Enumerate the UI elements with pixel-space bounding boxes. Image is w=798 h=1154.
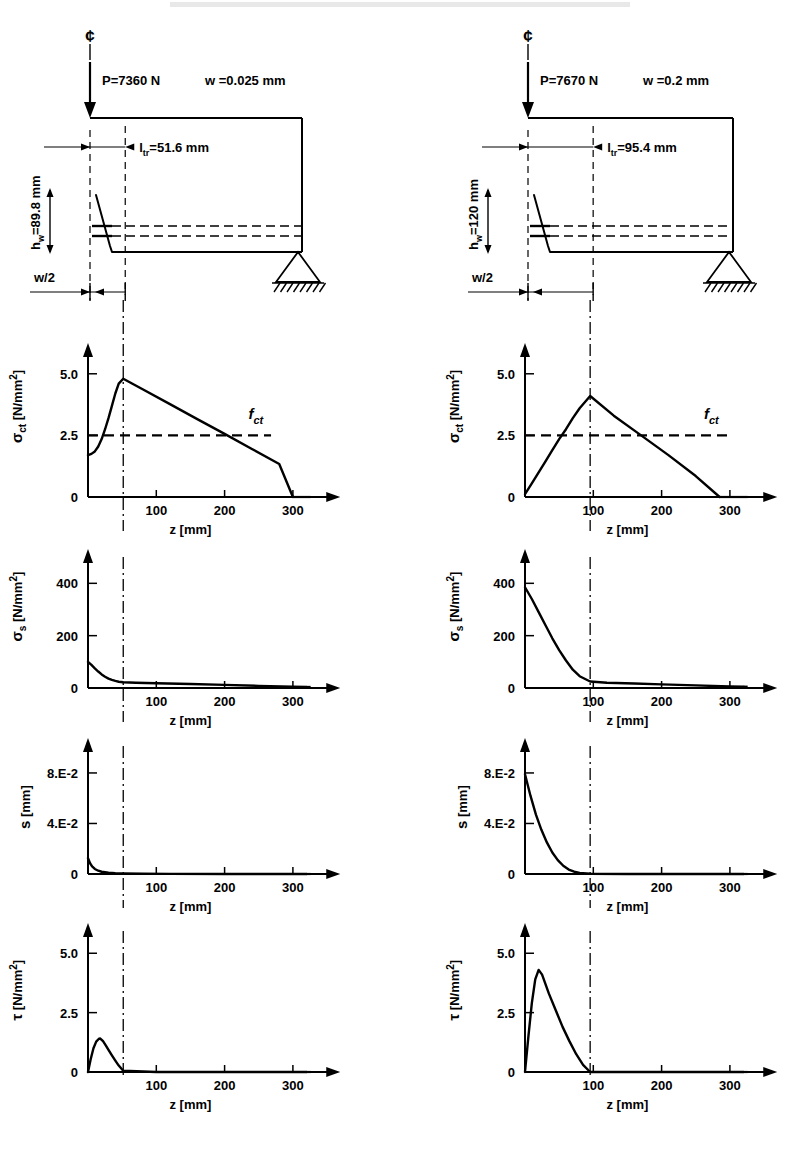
y-tick-label: 0 (508, 681, 515, 696)
x-tick-label: 300 (282, 1078, 304, 1093)
y-axis-label-group: s [mm] (453, 785, 470, 829)
cropped-header-artifact (170, 2, 630, 7)
y-tick-label: 4.E-2 (47, 816, 78, 831)
figure-canvas: ¢P=7360 Nw =0.025 mmltr=51.6 mmhw=89.8 m… (0, 0, 798, 1154)
x-tick-label: 100 (145, 503, 167, 518)
x-tick-label: 300 (719, 503, 741, 518)
x-tick-label: 300 (719, 880, 741, 895)
w-half-label: w/2 (471, 270, 493, 285)
y-tick-label: 0 (508, 1065, 515, 1080)
x-tick-label: 100 (582, 503, 604, 518)
x-tick-label: 200 (214, 503, 236, 518)
x-tick-label: 200 (214, 880, 236, 895)
y-tick-label: 0 (71, 681, 78, 696)
y-tick-label: 5.0 (497, 367, 515, 382)
x-tick-label: 200 (651, 694, 673, 709)
crack-width-label: w =0.2 mm (642, 73, 709, 88)
centerline-symbol: ¢ (85, 27, 95, 46)
y-tick-label: 8.E-2 (47, 766, 78, 781)
y-tick-label: 5.0 (60, 946, 78, 961)
y-tick-label: 0 (508, 867, 515, 882)
x-tick-label: 200 (651, 880, 673, 895)
y-axis-label-group: s [mm] (16, 785, 33, 829)
x-tick-label: 300 (282, 503, 304, 518)
y-axis-label: s [mm] (453, 785, 470, 829)
y-tick-label: 400 (493, 576, 515, 591)
y-tick-label: 2.5 (60, 1006, 78, 1021)
x-tick-label: 200 (651, 503, 673, 518)
y-tick-label: 2.5 (497, 428, 515, 443)
x-axis-label: z [mm] (607, 522, 649, 537)
y-tick-label: 200 (56, 629, 78, 644)
x-tick-label: 200 (214, 694, 236, 709)
x-tick-label: 300 (719, 694, 741, 709)
x-tick-label: 300 (282, 880, 304, 895)
x-tick-label: 100 (145, 1078, 167, 1093)
x-tick-label: 200 (651, 1078, 673, 1093)
x-axis-label: z [mm] (170, 522, 212, 537)
y-tick-label: 0 (71, 1065, 78, 1080)
y-tick-label: 0 (71, 490, 78, 505)
x-tick-label: 300 (719, 1078, 741, 1093)
x-tick-label: 200 (214, 1078, 236, 1093)
x-axis-label: z [mm] (170, 1097, 212, 1112)
x-axis-label: z [mm] (607, 899, 649, 914)
x-tick-label: 100 (145, 694, 167, 709)
x-tick-label: 100 (582, 1078, 604, 1093)
w-half-label: w/2 (33, 270, 55, 285)
crack-width-label: w =0.025 mm (204, 73, 286, 88)
y-tick-label: 0 (508, 490, 515, 505)
y-tick-label: 200 (493, 629, 515, 644)
load-label: P=7360 N (102, 73, 160, 88)
y-tick-label: 400 (56, 576, 78, 591)
x-tick-label: 100 (582, 880, 604, 895)
y-axis-label: s [mm] (16, 785, 33, 829)
y-tick-label: 4.E-2 (484, 816, 515, 831)
y-tick-label: 8.E-2 (484, 766, 515, 781)
x-tick-label: 100 (145, 880, 167, 895)
x-tick-label: 300 (282, 694, 304, 709)
x-axis-label: z [mm] (170, 713, 212, 728)
y-tick-label: 2.5 (497, 1006, 515, 1021)
y-tick-label: 2.5 (60, 428, 78, 443)
y-tick-label: 5.0 (60, 367, 78, 382)
y-tick-label: 5.0 (497, 946, 515, 961)
y-tick-label: 0 (71, 867, 78, 882)
x-axis-label: z [mm] (607, 1097, 649, 1112)
centerline-symbol: ¢ (523, 27, 533, 46)
page-background (0, 0, 798, 1154)
x-axis-label: z [mm] (170, 899, 212, 914)
x-tick-label: 100 (582, 694, 604, 709)
load-label: P=7670 N (540, 73, 598, 88)
x-axis-label: z [mm] (607, 713, 649, 728)
technical-figure: ¢P=7360 Nw =0.025 mmltr=51.6 mmhw=89.8 m… (0, 0, 798, 1154)
